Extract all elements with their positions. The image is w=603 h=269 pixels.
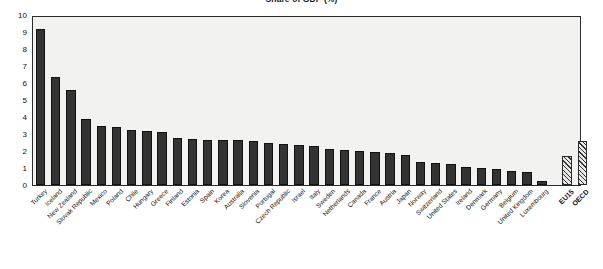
bar-italy — [309, 146, 318, 185]
y-tick-label: 5 — [23, 97, 27, 105]
bar-australia — [233, 140, 242, 185]
bar-austria — [385, 153, 394, 185]
y-tick-label: 8 — [23, 46, 27, 54]
bar-luxembourg — [537, 181, 546, 185]
y-tick-label: 1 — [23, 165, 27, 173]
bar-finland — [173, 138, 182, 185]
bar-greece — [157, 132, 166, 185]
bar-slovak-republic — [81, 119, 90, 185]
bar-israel — [294, 145, 303, 185]
bar-ireland — [461, 167, 470, 185]
y-tick-label: 4 — [23, 114, 27, 122]
bar-korea — [218, 140, 227, 185]
y-tick-label: 0 — [23, 182, 27, 190]
bar-switzerland — [431, 163, 440, 185]
bar-france — [370, 152, 379, 185]
bar-chile — [127, 130, 136, 185]
bar-netherlands — [340, 150, 349, 185]
bar-eu15 — [562, 156, 571, 185]
bar-sweden — [325, 149, 334, 185]
bar-estonia — [188, 139, 197, 185]
x-axis-label: Spain — [199, 188, 216, 205]
bar-mexico — [97, 126, 106, 185]
y-tick-label: 6 — [23, 80, 27, 88]
bar-united-states — [446, 164, 455, 185]
y-tick-label: 2 — [23, 148, 27, 156]
bar-portugal — [264, 143, 273, 185]
y-tick-label: 7 — [23, 63, 27, 71]
bar-new-zealand — [66, 90, 75, 185]
y-tick-label: 10 — [18, 12, 27, 20]
y-axis: 109876543210 — [0, 16, 32, 186]
bar-turkey — [36, 29, 45, 185]
bars-container — [33, 17, 580, 185]
y-tick-label: 3 — [23, 131, 27, 139]
bar-oecd — [578, 141, 587, 185]
bar-germany — [492, 169, 501, 185]
bar-denmark — [477, 168, 486, 185]
bar-united-kingdom — [522, 172, 531, 185]
bar-japan — [401, 155, 410, 185]
x-axis-labels: TurkeyIcelandNew ZealandSlovak RepublicM… — [33, 188, 580, 268]
bar-poland — [112, 127, 121, 185]
bar-belgium — [507, 171, 516, 185]
bar-norway — [416, 162, 425, 185]
y-tick-label: 9 — [23, 29, 27, 37]
x-axis-label: Israel — [290, 188, 306, 204]
bar-slovenia — [249, 141, 258, 185]
bar-hungary — [142, 131, 151, 185]
bar-chart: Share of GDP (%) 109876543210 TurkeyIcel… — [0, 0, 603, 269]
bar-spain — [203, 140, 212, 185]
bar-iceland — [51, 77, 60, 185]
bar-czech-republic — [279, 144, 288, 185]
bar-canada — [355, 151, 364, 185]
chart-title: Share of GDP (%) — [0, 0, 603, 4]
